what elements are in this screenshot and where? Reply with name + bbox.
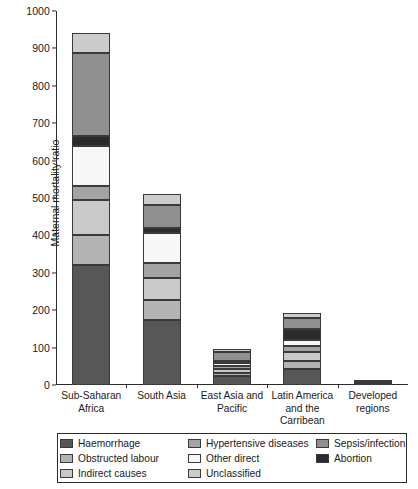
bar-segment[interactable] — [143, 278, 181, 300]
bar-segment[interactable] — [283, 340, 321, 347]
bar-segment[interactable] — [143, 228, 181, 233]
bar-group — [283, 11, 321, 385]
bar-segment[interactable] — [72, 235, 110, 265]
bar-segment[interactable] — [213, 376, 251, 385]
x-axis-label-line: Developed — [338, 390, 408, 403]
x-axis-label: Sub-SaharanAfrica — [56, 390, 126, 415]
legend-item[interactable]: Sepsis/infection — [316, 436, 405, 450]
x-axis-labels: Sub-SaharanAfricaSouth AsiaEast Asia and… — [56, 390, 408, 420]
x-axis-label: Developedregions — [338, 390, 408, 415]
bar-segment[interactable] — [72, 186, 110, 200]
bar-segment[interactable] — [72, 136, 110, 146]
x-axis-label-line: Pacific — [197, 403, 267, 416]
bar-segment[interactable] — [72, 265, 110, 385]
bar-group — [72, 11, 110, 385]
legend-swatch-icon — [316, 439, 329, 448]
x-axis-label-line: Sub-Saharan — [56, 390, 126, 403]
legend-label: Other direct — [206, 453, 259, 464]
legend-label: Abortion — [334, 453, 372, 464]
legend-swatch-icon — [60, 454, 73, 463]
bar-segment[interactable] — [143, 233, 181, 263]
bar-segment[interactable] — [213, 361, 251, 363]
legend-swatch-icon — [60, 469, 73, 478]
bar-segment[interactable] — [283, 313, 321, 318]
legend-item[interactable]: Indirect causes — [60, 466, 147, 480]
legend-label: Unclassified — [206, 468, 261, 479]
bar-segment[interactable] — [213, 352, 251, 360]
x-axis-label-line: Latin America — [267, 390, 337, 403]
legend-label: Obstructed labour — [78, 453, 159, 464]
x-axis-label-line: South Asia — [126, 390, 196, 403]
legend-swatch-icon — [188, 469, 201, 478]
bar-segment[interactable] — [213, 373, 251, 376]
x-axis-label: East Asia andPacific — [197, 390, 267, 415]
legend-swatch-icon — [188, 454, 201, 463]
bar-segment[interactable] — [283, 361, 321, 369]
bar-segment[interactable] — [213, 363, 251, 366]
legend-item[interactable]: Other direct — [188, 451, 259, 465]
bar-group — [354, 11, 392, 385]
chart-root: Maternal mortality ratio 010020030040050… — [0, 0, 418, 489]
y-axis-title-wrapper: Maternal mortality ratio — [0, 0, 18, 385]
bar-segment[interactable] — [72, 146, 110, 185]
legend-item[interactable]: Obstructed labour — [60, 451, 159, 465]
bar-segment[interactable] — [143, 300, 181, 319]
x-axis-label: Latin Americaand the Carribean — [267, 390, 337, 428]
legend: HaemorrhageObstructed labourIndirect cau… — [57, 433, 407, 483]
bar-segment[interactable] — [283, 329, 321, 339]
bar-segment[interactable] — [213, 369, 251, 373]
x-axis-label-line: East Asia and — [197, 390, 267, 403]
plot-area: 01002003004005006007008009001000 — [56, 11, 408, 385]
legend-item[interactable]: Abortion — [316, 451, 372, 465]
x-axis-label-line: Africa — [56, 403, 126, 416]
legend-items: HaemorrhageObstructed labourIndirect cau… — [58, 434, 406, 482]
legend-item[interactable]: Hypertensive diseases — [188, 436, 309, 450]
x-axis-label-line: regions — [338, 403, 408, 416]
legend-swatch-icon — [316, 454, 329, 463]
legend-swatch-icon — [188, 439, 201, 448]
legend-label: Sepsis/infection — [334, 438, 405, 449]
bar-segment[interactable] — [143, 263, 181, 279]
bar-segment[interactable] — [283, 352, 321, 361]
bar-segment[interactable] — [213, 366, 251, 369]
bar-segment[interactable] — [72, 53, 110, 136]
x-axis-label: South Asia — [126, 390, 196, 403]
bar-segment[interactable] — [72, 200, 110, 236]
bar-segment[interactable] — [72, 33, 110, 52]
legend-swatch-icon — [60, 439, 73, 448]
bar-segment[interactable] — [354, 380, 392, 382]
legend-label: Haemorrhage — [78, 438, 140, 449]
x-axis-label-line: and the Carribean — [267, 403, 337, 428]
legend-label: Hypertensive diseases — [206, 438, 309, 449]
bar-group — [143, 11, 181, 385]
bar-segment[interactable] — [213, 349, 251, 352]
bar-segment[interactable] — [283, 318, 321, 329]
legend-item[interactable]: Unclassified — [188, 466, 261, 480]
legend-label: Indirect causes — [78, 468, 147, 479]
bar-segment[interactable] — [283, 369, 321, 385]
bar-segment[interactable] — [283, 346, 321, 351]
bar-group — [213, 11, 251, 385]
bars-container — [56, 11, 408, 385]
bar-segment[interactable] — [143, 205, 181, 228]
legend-item[interactable]: Haemorrhage — [60, 436, 140, 450]
bar-segment[interactable] — [143, 320, 181, 385]
bar-segment[interactable] — [143, 194, 181, 204]
